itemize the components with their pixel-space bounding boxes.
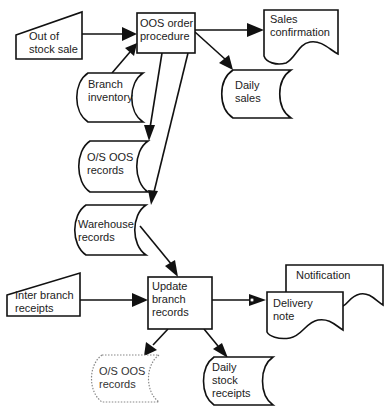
edge-oos-to-daily-sales: [195, 32, 226, 60]
arrowhead: [144, 342, 157, 356]
node-os-oos-records-bottom[interactable]: O/S OOS records: [92, 355, 160, 402]
arrowhead: [122, 27, 137, 41]
node-label: Daily: [212, 361, 237, 373]
edge-warehouse-to-update: [140, 226, 172, 265]
edge-update-to-daily-stock: [204, 329, 218, 346]
node-inter-branch-receipts[interactable]: Inter branch receipts: [7, 273, 80, 316]
node-label: inventory: [88, 91, 133, 103]
node-label: sales: [235, 92, 261, 104]
node-label: procedure: [140, 30, 190, 42]
node-label: O/S OOS: [99, 365, 145, 377]
node-delivery-note[interactable]: Delivery note: [267, 292, 343, 339]
node-out-of-stock-sale[interactable]: Out of stock sale: [16, 12, 82, 59]
node-warehouse-records[interactable]: Warehouse records: [75, 205, 146, 255]
node-label: Sales: [270, 13, 298, 25]
arrowhead: [125, 43, 137, 56]
node-label: Daily: [235, 79, 260, 91]
node-label: Notification: [296, 269, 350, 281]
node-label: branch: [152, 293, 186, 305]
arrowhead: [165, 260, 178, 277]
node-daily-sales[interactable]: Daily sales: [222, 70, 291, 118]
node-label: stock sale: [29, 43, 78, 55]
node-label: receipts: [15, 302, 54, 314]
edge-inventory-to-oos: [112, 52, 130, 73]
edge-update-to-os-records-bottom: [153, 329, 168, 345]
arrowhead: [132, 293, 148, 307]
node-label: Branch: [88, 78, 123, 90]
node-sales-confirmation[interactable]: Sales confirmation: [264, 10, 338, 64]
node-label: Delivery: [273, 297, 313, 309]
node-label: Inter branch: [15, 289, 74, 301]
stored-data-shape: [75, 205, 146, 255]
node-label: stock: [212, 374, 238, 386]
arrowhead: [213, 343, 228, 358]
node-branch-inventory[interactable]: Branch inventory: [77, 73, 143, 122]
connector-dot: [250, 298, 254, 302]
arrowhead: [247, 23, 264, 37]
node-label: records: [99, 378, 136, 390]
node-label: Update: [152, 280, 187, 292]
node-label: confirmation: [270, 26, 330, 38]
node-label: records: [78, 231, 115, 243]
node-os-oos-records-top[interactable]: O/S OOS records: [79, 141, 148, 192]
flowchart-canvas: Out of stock sale OOS order procedure Sa…: [0, 0, 392, 411]
edge-oos-to-os-records: [150, 53, 162, 128]
node-oos-order-procedure[interactable]: OOS order procedure: [137, 13, 195, 53]
node-label: receipts: [212, 387, 251, 399]
node-label: Warehouse: [78, 218, 134, 230]
node-label: records: [87, 164, 124, 176]
node-label: note: [273, 310, 294, 322]
node-label: OOS order: [140, 17, 194, 29]
arrowhead: [144, 125, 155, 141]
arrowhead: [219, 55, 233, 70]
node-label: O/S OOS: [87, 151, 133, 163]
node-update-branch-records[interactable]: Update branch records: [148, 277, 212, 329]
node-label: records: [152, 306, 189, 318]
node-label: Out of: [29, 30, 60, 42]
node-daily-stock-receipts[interactable]: Daily stock receipts: [204, 357, 274, 405]
